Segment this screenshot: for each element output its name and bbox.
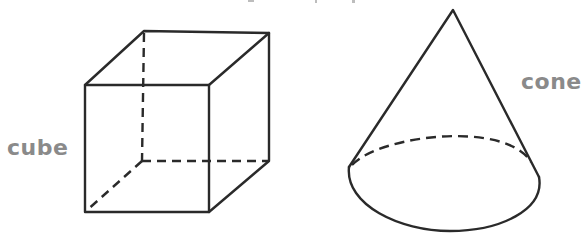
cone-base-hidden-arc [352,136,531,165]
cube-visible-edges [85,31,269,212]
cube-label: cube [7,137,68,159]
cone-base-front-arc [349,167,540,231]
cone-shape [349,10,540,231]
clipped-caption-fragment [248,0,355,3]
solids-figure [0,0,583,235]
cube-shape [85,31,269,212]
cone-sides [349,10,539,177]
diagram-canvas: cube cone [0,0,583,235]
cone-label: cone [521,71,582,93]
